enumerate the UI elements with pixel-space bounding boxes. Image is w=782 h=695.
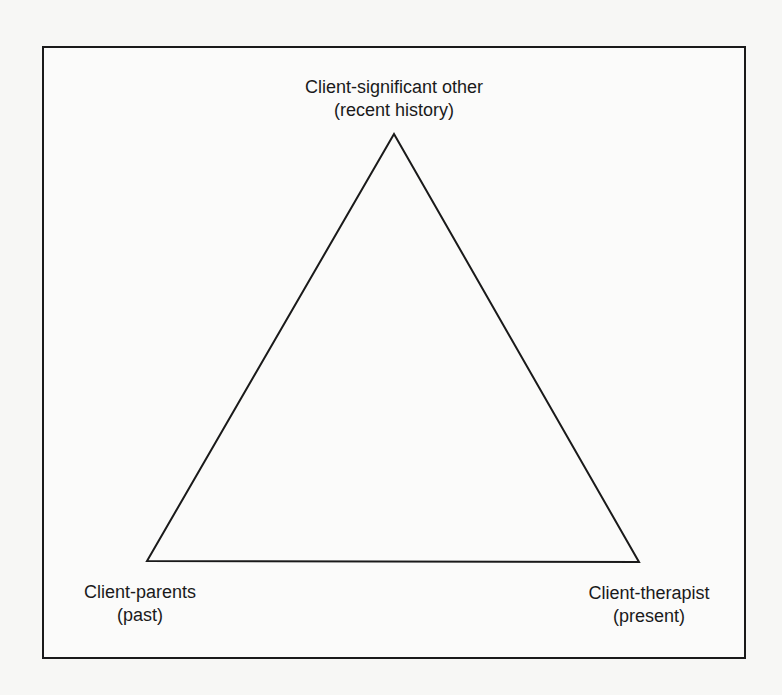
vertex-label-right: Client-therapist (present) xyxy=(588,582,709,628)
vertex-title: Client-parents xyxy=(84,581,196,604)
vertex-title: Client-significant other xyxy=(305,76,483,99)
vertex-subtitle: (recent history) xyxy=(305,99,483,122)
relationship-triangle xyxy=(147,134,639,562)
vertex-label-top: Client-significant other (recent history… xyxy=(305,76,483,122)
vertex-title: Client-therapist xyxy=(588,582,709,605)
vertex-label-left: Client-parents (past) xyxy=(84,581,196,627)
vertex-subtitle: (past) xyxy=(84,604,196,627)
vertex-subtitle: (present) xyxy=(588,605,709,628)
